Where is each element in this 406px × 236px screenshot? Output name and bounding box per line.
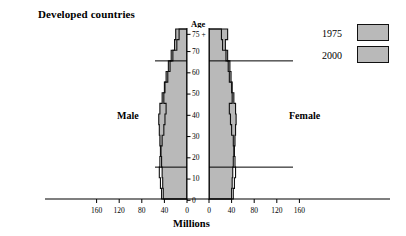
x-tick-label-left: 80: [138, 206, 146, 215]
female-side-label: Female: [289, 110, 320, 121]
x-tick-label-right: 160: [294, 206, 306, 215]
age-tick-label: 30: [192, 132, 200, 141]
x-tick-label-right: 40: [228, 206, 236, 215]
age-tick-label: 50: [192, 89, 200, 98]
age-tick-label: 20: [192, 153, 200, 162]
x-tick-label-left: 160: [91, 206, 103, 215]
x-tick-label-right: 0: [207, 206, 211, 215]
age-tick-label: 10: [192, 174, 200, 183]
legend-label-2000: 2000: [322, 50, 342, 61]
x-tick-label-right: 120: [271, 206, 283, 215]
age-tick-label: 0: [192, 196, 196, 205]
male-side-label: Male: [117, 110, 139, 121]
age-tick-label: 40: [192, 111, 200, 120]
x-tick-label-left: 0: [185, 206, 189, 215]
population-pyramid-figure: Developed countries Age 0102030405060707…: [0, 0, 406, 236]
x-tick-label-left: 120: [114, 206, 126, 215]
age-tick-label: 75 +: [192, 30, 206, 39]
legend-label-1975: 1975: [322, 28, 342, 39]
legend-swatch-2000: [357, 46, 389, 63]
age-tick-label: 60: [192, 68, 200, 77]
x-tick-label-right: 80: [250, 206, 258, 215]
age-tick-label: 70: [192, 47, 200, 56]
x-tick-label-left: 40: [161, 206, 169, 215]
x-axis-title: Millions: [173, 218, 210, 229]
pyramid-plot: 01020304050607075 +160120804000408012016…: [0, 0, 406, 236]
legend-swatch-1975: [357, 24, 389, 41]
